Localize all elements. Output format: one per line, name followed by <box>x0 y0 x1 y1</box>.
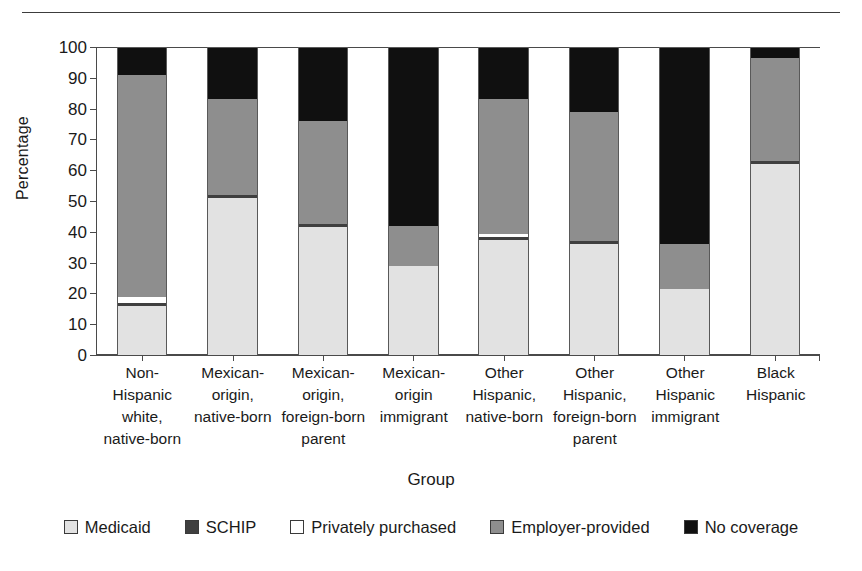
x-tick-mark <box>594 355 595 361</box>
x-axis-category-label: Other Hispanic, native-born <box>459 362 550 450</box>
x-tick-mark <box>819 355 820 361</box>
bar-group[interactable] <box>730 47 820 355</box>
legend-item[interactable]: Employer-provided <box>490 519 649 536</box>
bar-group[interactable] <box>639 47 729 355</box>
bar-segment[interactable] <box>207 47 258 99</box>
bars-layer <box>97 47 820 355</box>
stacked-bar[interactable] <box>750 47 801 355</box>
x-axis-category-label: Mexican- origin, foreign-born parent <box>278 362 369 450</box>
bar-segment[interactable] <box>659 47 710 244</box>
bar-segment[interactable] <box>298 121 349 224</box>
bar-segment[interactable] <box>569 47 620 112</box>
bar-segment[interactable] <box>478 240 529 356</box>
top-divider-rule <box>22 12 840 13</box>
bar-segment[interactable] <box>388 266 439 355</box>
stacked-bar[interactable] <box>659 47 710 355</box>
bar-segment[interactable] <box>207 198 258 355</box>
legend-swatch-icon <box>490 520 504 534</box>
bar-segment[interactable] <box>569 112 620 241</box>
x-axis-category-label: Other Hispanic, foreign-born parent <box>550 362 641 450</box>
legend-item[interactable]: Medicaid <box>64 519 151 536</box>
bar-segment[interactable] <box>659 289 710 355</box>
stacked-bar[interactable] <box>478 47 529 355</box>
bar-segment[interactable] <box>117 306 168 355</box>
stacked-bar[interactable] <box>569 47 620 355</box>
bar-segment[interactable] <box>659 244 710 289</box>
figure: Percentage 0102030405060708090100 Non-Hi… <box>0 0 862 571</box>
x-tick-mark <box>233 355 234 361</box>
x-tick-mark <box>684 355 685 361</box>
legend-label: Employer-provided <box>511 519 649 536</box>
x-axis-category-labels: Non-Hispanic white, native-bornMexican- … <box>97 362 821 450</box>
bar-segment[interactable] <box>388 226 439 266</box>
stacked-bar[interactable] <box>298 47 349 355</box>
legend-swatch-icon <box>290 520 304 534</box>
bar-segment[interactable] <box>750 164 801 355</box>
x-axis-title: Group <box>0 470 862 490</box>
y-tick-label: 10 <box>68 316 96 333</box>
stacked-bar[interactable] <box>207 47 258 355</box>
bar-segment[interactable] <box>117 75 168 297</box>
y-tick-label: 100 <box>59 39 96 56</box>
bar-segment[interactable] <box>298 227 349 355</box>
legend-label: Medicaid <box>85 519 151 536</box>
bar-group[interactable] <box>97 47 187 355</box>
y-tick-label: 50 <box>68 193 96 210</box>
bar-segment[interactable] <box>117 47 168 75</box>
legend-swatch-icon <box>185 520 199 534</box>
stacked-bar[interactable] <box>117 47 168 355</box>
y-tick-label: 30 <box>68 254 96 271</box>
bar-segment[interactable] <box>388 47 439 226</box>
x-axis-category-label: Black Hispanic <box>731 362 822 450</box>
x-tick-mark <box>775 355 776 361</box>
legend-swatch-icon <box>684 520 698 534</box>
bar-segment[interactable] <box>478 99 529 234</box>
y-tick-label: 0 <box>78 347 96 364</box>
legend-label: No coverage <box>705 519 799 536</box>
y-tick-label: 20 <box>68 285 96 302</box>
legend: MedicaidSCHIPPrivately purchasedEmployer… <box>0 519 862 536</box>
x-axis-category-label: Mexican- origin immigrant <box>369 362 460 450</box>
bar-group[interactable] <box>187 47 277 355</box>
y-tick-label: 60 <box>68 162 96 179</box>
y-tick-label: 40 <box>68 223 96 240</box>
x-tick-mark <box>413 355 414 361</box>
x-tick-mark <box>142 355 143 361</box>
bar-group[interactable] <box>549 47 639 355</box>
bar-segment[interactable] <box>750 47 801 58</box>
y-tick-label: 80 <box>68 100 96 117</box>
bar-group[interactable] <box>459 47 549 355</box>
bar-segment[interactable] <box>478 47 529 99</box>
legend-label: Privately purchased <box>311 519 456 536</box>
x-axis-category-label: Mexican- origin, native-born <box>188 362 279 450</box>
bar-group[interactable] <box>368 47 458 355</box>
stacked-bar[interactable] <box>388 47 439 355</box>
plot-area: 0102030405060708090100 <box>96 47 820 355</box>
legend-label: SCHIP <box>206 519 256 536</box>
legend-swatch-icon <box>64 520 78 534</box>
bar-segment[interactable] <box>569 244 620 355</box>
x-tick-mark <box>323 355 324 361</box>
y-axis-title: Percentage <box>14 116 32 200</box>
y-tick-label: 90 <box>68 69 96 86</box>
legend-item[interactable]: Privately purchased <box>290 519 456 536</box>
x-axis-category-label: Other Hispanic immigrant <box>640 362 731 450</box>
legend-item[interactable]: No coverage <box>684 519 799 536</box>
bar-segment[interactable] <box>750 58 801 161</box>
bar-segment[interactable] <box>298 47 349 121</box>
bar-group[interactable] <box>278 47 368 355</box>
y-tick-label: 70 <box>68 131 96 148</box>
legend-item[interactable]: SCHIP <box>185 519 256 536</box>
x-tick-mark <box>504 355 505 361</box>
x-axis-category-label: Non-Hispanic white, native-born <box>97 362 188 450</box>
bar-segment[interactable] <box>207 99 258 194</box>
